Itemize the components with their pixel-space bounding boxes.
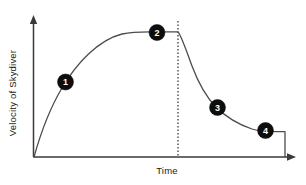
velocity-curve	[34, 32, 285, 157]
marker-3-label: 3	[215, 103, 220, 113]
y-axis-arrow-icon	[30, 15, 37, 24]
chart-canvas: 1 2 3 4 Velocity of Skydiver Time	[0, 0, 306, 185]
marker-4-label: 4	[263, 126, 268, 136]
y-axis-label: Velocity of Skydiver	[7, 50, 18, 136]
marker-2-label: 2	[154, 28, 159, 38]
marker-4: 4	[258, 123, 274, 139]
marker-1-label: 1	[63, 77, 68, 87]
x-axis-label: Time	[156, 165, 178, 176]
marker-1: 1	[58, 74, 74, 90]
marker-2: 2	[149, 25, 165, 41]
skydiver-velocity-chart: 1 2 3 4 Velocity of Skydiver Time	[0, 0, 306, 185]
x-axis-arrow-icon	[287, 153, 296, 160]
marker-3: 3	[210, 100, 226, 116]
